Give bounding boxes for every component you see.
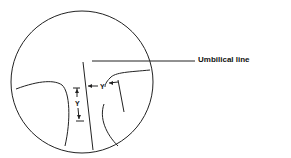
arrowhead-top xyxy=(75,89,79,93)
umbilical-line-label: Umbilical line xyxy=(198,55,250,64)
arrowhead-left xyxy=(88,84,92,88)
central-vertical-line xyxy=(83,62,93,150)
arrowhead-right xyxy=(109,81,113,85)
horizontal-dim-label: Y xyxy=(100,83,105,90)
right-upper-curve xyxy=(105,70,150,87)
left-curve xyxy=(16,82,69,146)
right-lower-curve xyxy=(102,104,118,146)
right-vertical-tick xyxy=(118,80,124,112)
vertical-dim-label: Y xyxy=(75,100,80,107)
field-circle xyxy=(11,11,153,153)
optic-field-diagram: Y Y xyxy=(0,0,291,158)
arrowhead-bottom xyxy=(77,115,81,119)
